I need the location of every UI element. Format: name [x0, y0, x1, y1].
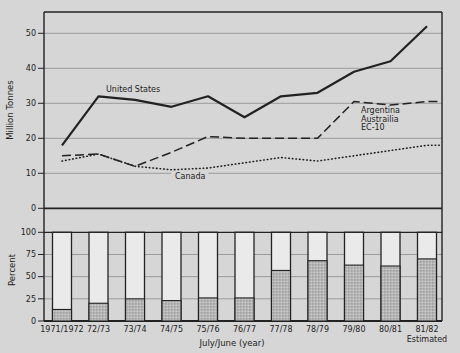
bar-shade-79-80: [345, 265, 364, 321]
bar-shade-78-79: [308, 261, 327, 321]
bar-shade-74-75: [162, 301, 181, 321]
y-axis-title-bottom: Percent: [7, 253, 17, 286]
bar-shade-81-82: [418, 259, 437, 321]
ytick-label-top-20: 20: [26, 134, 36, 143]
bar-shade-75-76: [199, 298, 218, 321]
series-label-canada-line0: Canada: [175, 172, 206, 181]
ytick-label-bottom-50: 50: [26, 272, 36, 281]
xtick-label-1971-1972: 1971/1972: [40, 325, 83, 334]
xtick-label-78-79: 78/79: [306, 325, 329, 334]
y-axis-title-top: Million Tonnes: [5, 80, 15, 140]
bar-shade-73-74: [126, 299, 145, 321]
ytick-label-bottom-0: 0: [31, 317, 36, 326]
ytick-label-top-10: 10: [26, 169, 36, 178]
bar-shade-80-81: [381, 266, 400, 321]
xtick-label-79-80: 79/80: [342, 325, 365, 334]
ytick-label-bottom-75: 75: [26, 250, 36, 259]
ytick-label-top-30: 30: [26, 99, 36, 108]
series-label-argentina-austrailia-ec-10-line2: EC-10: [361, 123, 385, 132]
series-label-united-states-line0: United States: [106, 85, 160, 94]
ytick-label-top-0: 0: [31, 204, 36, 213]
bar-shade-76-77: [235, 298, 254, 321]
bar-outline-1971-1972: [53, 232, 72, 321]
chart-canvas: 010203040500255075100Million TonnesPerce…: [0, 0, 460, 353]
ytick-label-top-40: 40: [26, 64, 36, 73]
bar-shade-1971-1972: [53, 309, 72, 321]
xtick-label-73-74: 73/74: [123, 325, 146, 334]
ytick-label-top-50: 50: [26, 29, 36, 38]
xtick-note-estimated: Estimated: [407, 335, 447, 344]
x-axis-title: July/June (year): [199, 338, 265, 348]
bar-shade-77-78: [272, 270, 291, 321]
bar-shade-72-73: [89, 303, 108, 321]
grain-exports-figure: 010203040500255075100Million TonnesPerce…: [0, 0, 460, 353]
xtick-label-80-81: 80/81: [379, 325, 402, 334]
xtick-label-75-76: 75/76: [196, 325, 219, 334]
xtick-label-81-82: 81/82: [415, 325, 438, 334]
xtick-label-77-78: 77/78: [269, 325, 292, 334]
ytick-label-bottom-25: 25: [26, 295, 36, 304]
xtick-label-72-73: 72/73: [87, 325, 110, 334]
xtick-label-76-77: 76/77: [233, 325, 256, 334]
ytick-label-bottom-100: 100: [21, 228, 36, 237]
xtick-label-74-75: 74/75: [160, 325, 183, 334]
